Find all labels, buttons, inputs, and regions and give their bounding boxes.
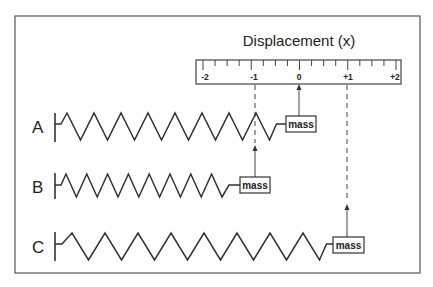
ruler-label-neg1: -1: [250, 72, 258, 82]
ruler-label-zero: 0: [297, 72, 302, 82]
spring-label-a: A: [32, 118, 44, 137]
displacement-ruler: -2 -1 0 +1 +2: [196, 60, 401, 84]
diagram-frame: [15, 16, 420, 273]
diagram-title: Displacement (x): [243, 32, 356, 49]
ruler-label-neg2: -2: [201, 72, 209, 82]
ruler-label-pos1: +1: [343, 72, 353, 82]
mass-label-a: mass: [288, 119, 314, 130]
spring-label-b: B: [32, 178, 43, 197]
ruler-label-pos2: +2: [390, 72, 400, 82]
mass-label-c: mass: [336, 240, 362, 251]
mass-label-b: mass: [242, 180, 268, 191]
spring-displacement-diagram: Displacement (x) -2 -1 0 +1 +2 A mass B: [0, 0, 433, 287]
spring-label-c: C: [32, 238, 44, 257]
